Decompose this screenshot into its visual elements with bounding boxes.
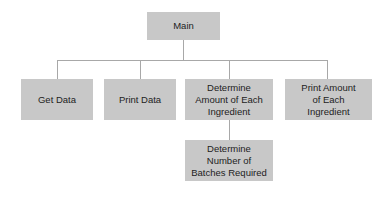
connector-get-data — [57, 60, 58, 79]
node-determine-amount: Determine Amount of Each Ingredient — [185, 79, 273, 120]
node-main: Main — [147, 12, 220, 40]
node-print-amount: Print Amount of Each Ingredient — [285, 79, 372, 120]
node-label: Print Data — [119, 94, 161, 106]
node-print-data: Print Data — [104, 79, 176, 120]
node-get-data: Get Data — [21, 79, 93, 120]
connector-main-down — [183, 40, 184, 60]
node-label: Print Amount of Each Ingredient — [297, 82, 360, 118]
node-label: Determine Number of Batches Required — [191, 143, 267, 179]
connector-print-data — [140, 60, 141, 79]
node-label: Determine Amount of Each Ingredient — [191, 82, 267, 118]
node-label: Main — [173, 20, 194, 32]
connector-print-amount — [327, 60, 328, 79]
connector-determine-amount — [229, 60, 230, 79]
node-determine-number: Determine Number of Batches Required — [185, 140, 273, 181]
node-label: Get Data — [38, 94, 76, 106]
connector-horizontal — [57, 60, 328, 61]
connector-determine-number — [229, 120, 230, 140]
